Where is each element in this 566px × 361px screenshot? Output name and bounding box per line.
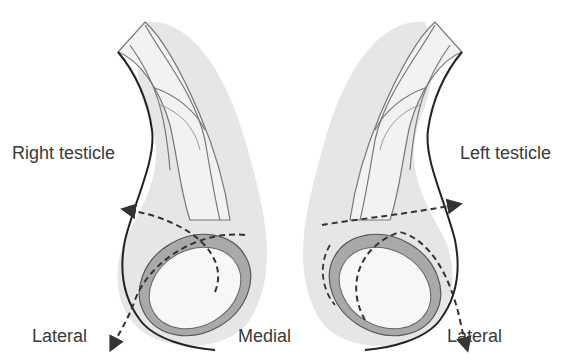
lateral-label-right: Lateral (447, 326, 502, 346)
torsion-diagram (0, 0, 566, 361)
lateral-label-left: Lateral (32, 326, 87, 346)
left-testicle-label: Left testicle (460, 143, 551, 163)
right-testicle-illustration (113, 22, 269, 356)
left-testicle-illustration (303, 22, 466, 356)
medial-label: Medial (238, 326, 291, 346)
right-testicle-label: Right testicle (12, 143, 115, 163)
